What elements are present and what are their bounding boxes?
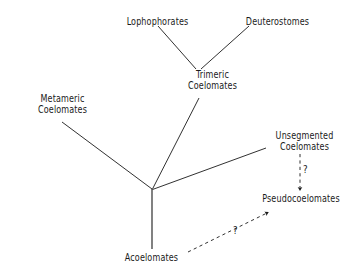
node-label-deuterostomes: Deuterostomes <box>233 16 321 27</box>
node-label-unsegmented-coelomates: Unsegmented Coelomates <box>260 130 348 152</box>
node-label-metameric-coelomates: Metameric Coelomates <box>18 93 106 115</box>
branch-lophophorates-to-trimeric <box>158 26 196 69</box>
branch-deuterostomes-to-trimeric <box>201 26 249 69</box>
node-label-lophophorates: Lophophorates <box>113 16 201 27</box>
uncertainty-marker-vertical: ? <box>303 165 308 175</box>
node-label-pseudocoelomates: Pseudocoelomates <box>250 193 352 204</box>
uncertain-link-acoelomates-to-pseudocoelomates <box>188 213 267 252</box>
node-label-trimeric-coelomates: Trimeric Coelomates <box>168 69 256 91</box>
branch-unsegmented-to-root <box>153 148 267 190</box>
node-label-acoelomates: Acoelomates <box>107 252 195 263</box>
phylogenetic-tree-diagram: Lophophorates Deuterostomes Trimeric Coe… <box>0 0 357 276</box>
branch-metameric-to-root <box>62 122 152 189</box>
uncertainty-marker-diagonal: ? <box>233 226 238 236</box>
